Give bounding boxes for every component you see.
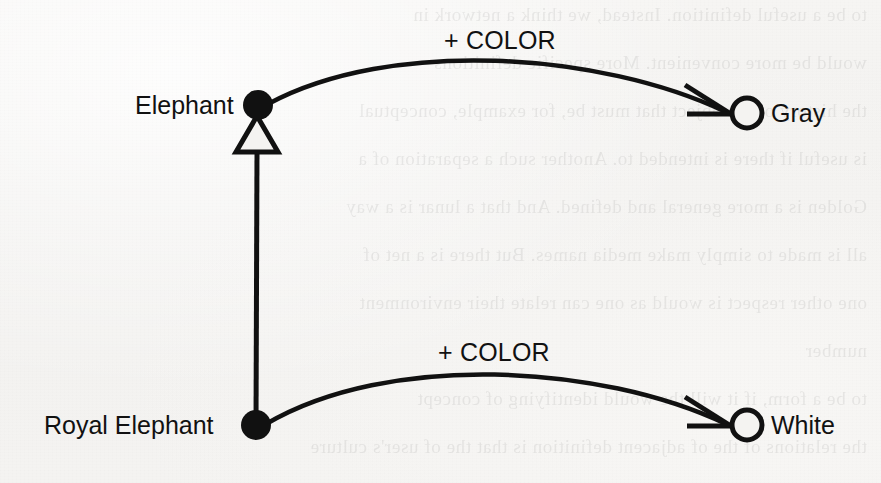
node-royal-elephant-marker[interactable] [241, 410, 271, 440]
node-label-gray: Gray [771, 101, 825, 126]
link-elephant-color-gray[interactable] [268, 60, 731, 114]
node-white-marker[interactable] [732, 410, 762, 440]
arc-label-color-gray: + COLOR [444, 28, 556, 53]
arc-label-color-white: + COLOR [438, 340, 550, 365]
node-elephant-marker[interactable] [243, 90, 273, 120]
link-royal-elephant-color-white[interactable] [266, 374, 731, 426]
isa-link-line [256, 152, 257, 422]
node-gray-marker[interactable] [732, 98, 762, 128]
color-arc-curve-top [268, 60, 726, 112]
node-label-elephant: Elephant [135, 93, 234, 118]
figure-canvas: to be a useful definition. Instead, we t… [0, 0, 881, 483]
node-label-white: White [771, 413, 835, 438]
color-arc-curve-bottom [266, 374, 726, 424]
hollow-triangle-icon [236, 116, 278, 152]
link-royal-elephant-isa-elephant[interactable] [236, 116, 278, 422]
node-label-royal-elephant: Royal Elephant [44, 413, 214, 438]
